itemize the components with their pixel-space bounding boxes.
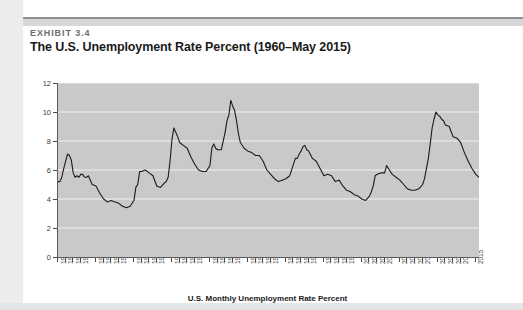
x-axis-tick-mark	[80, 258, 81, 262]
x-axis-tick-mark	[460, 258, 461, 262]
x-axis-tick-mark	[338, 258, 339, 262]
x-axis-tick-mark	[194, 258, 195, 262]
x-axis-tick-mark	[300, 258, 301, 262]
x-axis-title: U.S. Monthly Unemployment Rate Percent	[57, 294, 478, 303]
x-axis-tick-mark	[406, 258, 407, 262]
x-axis-tick-mark	[292, 258, 293, 262]
x-axis-tick-mark	[179, 258, 180, 262]
x-axis-tick-mark	[247, 258, 248, 262]
y-axis-tick-label: 4	[29, 195, 51, 204]
x-axis-tick-mark	[444, 258, 445, 262]
x-axis-tick-mark	[65, 258, 66, 262]
x-axis-tick-mark	[414, 258, 415, 262]
x-axis-tick-mark	[156, 258, 157, 262]
y-axis-tick-label: 0	[29, 253, 51, 262]
x-axis-tick-mark	[437, 258, 438, 262]
x-axis-tick-mark	[141, 258, 142, 262]
x-axis-tick-mark	[95, 258, 96, 262]
x-axis-tick-mark	[330, 258, 331, 262]
x-axis-tick-mark	[186, 258, 187, 262]
exhibit-page: EXHIBIT 3.4 The U.S. Unemployment Rate P…	[0, 0, 523, 310]
y-axis-tick-label: 8	[29, 137, 51, 146]
x-axis-tick-mark	[224, 258, 225, 262]
chart-plot-area	[57, 83, 479, 258]
x-axis-tick-mark	[270, 258, 271, 262]
x-axis-tick-mark	[57, 258, 58, 262]
x-axis-tick-mark	[103, 258, 104, 262]
page-left-margin-band	[0, 0, 23, 310]
x-axis-tick-mark	[452, 258, 453, 262]
x-axis-tick-mark	[361, 258, 362, 262]
x-axis-tick-mark	[323, 258, 324, 262]
x-axis-tick-mark	[285, 258, 286, 262]
x-axis-tick-mark	[118, 258, 119, 262]
x-axis-tick-mark	[148, 258, 149, 262]
x-axis-tick-mark	[209, 258, 210, 262]
x-axis-tick-mark	[399, 258, 400, 262]
page-top-band	[23, 19, 523, 26]
y-axis-tick-label: 12	[29, 79, 51, 88]
y-axis-tick-label: 10	[29, 108, 51, 117]
y-axis-tick-label: 6	[29, 166, 51, 175]
x-axis-tick-mark	[255, 258, 256, 262]
x-axis-tick-mark	[133, 258, 134, 262]
x-axis-tick-mark	[262, 258, 263, 262]
series-line-unemployment-rate	[58, 100, 479, 207]
x-axis-tick-mark	[110, 258, 111, 262]
x-axis-tick-mark	[368, 258, 369, 262]
x-axis-tick-mark	[308, 258, 309, 262]
x-axis-tick-mark	[171, 258, 172, 262]
exhibit-label: EXHIBIT 3.4	[30, 28, 90, 38]
x-axis-tick-mark	[217, 258, 218, 262]
page-title: The U.S. Unemployment Rate Percent (1960…	[30, 40, 351, 54]
x-axis-tick-mark	[72, 258, 73, 262]
page-bottom-band	[0, 303, 523, 310]
y-axis-tick-label: 2	[29, 224, 51, 233]
x-axis-tick-mark	[422, 258, 423, 262]
x-axis-tick-mark	[376, 258, 377, 262]
x-axis-tick-mark	[346, 258, 347, 262]
x-axis-tick-mark	[232, 258, 233, 262]
x-axis-tick-mark	[384, 258, 385, 262]
unemployment-rate-line-chart	[58, 83, 479, 257]
chart-gridlines	[58, 83, 479, 228]
x-axis-tick-mark	[475, 258, 476, 262]
